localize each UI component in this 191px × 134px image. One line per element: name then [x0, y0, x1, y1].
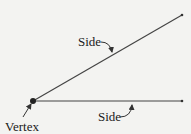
vertex-leader-arrow: [23, 104, 31, 117]
lower-ray-endpoint: [181, 100, 184, 103]
vertex-point: [30, 98, 36, 104]
angle-diagram: Side Side Vertex: [0, 0, 191, 134]
upper-side-leader-arrow: [101, 42, 112, 52]
vertex-label: Vertex: [5, 119, 39, 134]
upper-ray-endpoint: [181, 14, 184, 17]
lower-side-label: Side: [98, 109, 121, 124]
upper-side-label: Side: [78, 34, 101, 49]
upper-side-ray: [33, 15, 182, 101]
lower-side-leader-arrow: [120, 105, 132, 117]
